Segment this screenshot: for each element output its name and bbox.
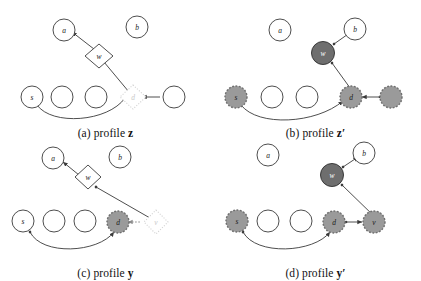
node-d-label: d xyxy=(116,218,120,227)
panel-c-profile-y: a b w s d xyxy=(0,140,211,281)
caption-d-word: profile xyxy=(302,267,333,279)
node-n2 xyxy=(43,210,65,232)
node-b: b xyxy=(109,146,131,168)
node-a-label: a xyxy=(278,26,282,35)
node-v xyxy=(380,86,402,108)
edge-s-to-d xyxy=(30,232,114,249)
node-n3 xyxy=(290,210,312,232)
panel-a-profile-z: a b w s d xyxy=(0,0,211,141)
panel-d-graph: a b w s d xyxy=(210,140,421,281)
node-s: s xyxy=(21,86,43,108)
node-w-label: w xyxy=(85,173,90,182)
node-w: w xyxy=(321,164,344,187)
node-d-label: d xyxy=(332,218,336,227)
node-d: d xyxy=(323,211,345,233)
caption-panel-c: (c) profile y xyxy=(0,267,211,279)
node-s-label: s xyxy=(31,93,34,102)
node-n3 xyxy=(85,86,107,108)
caption-c-word: profile xyxy=(93,267,124,279)
edge-d-to-w xyxy=(104,62,129,92)
panel-c-graph: a b w s d xyxy=(0,140,211,281)
node-b: b xyxy=(126,16,148,38)
node-b-label: b xyxy=(118,153,122,162)
caption-b-word: profile xyxy=(302,127,333,139)
figure-four-panel-profiles: a b w s d xyxy=(0,0,421,281)
edge-s-to-d xyxy=(37,98,125,119)
node-n3 xyxy=(74,210,96,232)
edge-w-to-a xyxy=(72,32,97,51)
node-s-label: s xyxy=(22,217,25,226)
panel-b-profile-z-prime: a b w s d xyxy=(210,0,421,141)
edge-s-to-d xyxy=(243,232,330,249)
node-a-label: a xyxy=(62,26,66,35)
node-d: d xyxy=(340,86,362,108)
panel-b-graph: a b w s d xyxy=(210,0,421,141)
node-d: d xyxy=(120,85,146,109)
node-b: b xyxy=(344,18,366,40)
node-b-label: b xyxy=(353,25,357,34)
node-n3 xyxy=(296,86,318,108)
node-s-label: s xyxy=(236,217,239,226)
node-a: a xyxy=(257,144,279,166)
caption-b-prefix: (b) xyxy=(286,127,300,139)
node-n2 xyxy=(51,86,73,108)
caption-panel-a: (a) profile z xyxy=(0,127,211,139)
caption-b-prime: ′ xyxy=(342,127,345,139)
caption-a-word: profile xyxy=(94,127,125,139)
panel-d-profile-y-prime: a b w s d xyxy=(210,140,421,281)
node-s: s xyxy=(225,86,247,108)
node-n2 xyxy=(261,86,283,108)
node-v xyxy=(163,86,185,108)
node-b: b xyxy=(353,142,375,164)
caption-panel-b: (b) profile z′ xyxy=(210,127,421,139)
node-a-label: a xyxy=(266,151,270,160)
caption-c-symbol: y xyxy=(128,267,134,279)
node-v: v xyxy=(144,210,168,234)
node-a: a xyxy=(42,147,64,169)
node-w: w xyxy=(85,44,113,68)
edge-s-to-d xyxy=(241,101,343,120)
caption-panel-d: (d) profile y′ xyxy=(210,267,421,279)
node-w-label: w xyxy=(329,171,334,180)
panel-a-graph: a b w s d xyxy=(0,0,211,141)
node-d: d xyxy=(107,211,129,233)
node-w-label: w xyxy=(96,52,101,61)
edge-w-to-a xyxy=(63,162,79,175)
node-d-label: d xyxy=(131,93,135,102)
caption-a-prefix: (a) xyxy=(78,127,91,139)
node-d-label: d xyxy=(349,93,353,102)
node-a: a xyxy=(269,19,291,41)
node-s: s xyxy=(12,210,34,232)
node-s-label: s xyxy=(235,93,238,102)
node-v: v xyxy=(363,211,385,233)
node-s: s xyxy=(226,210,248,232)
node-n2 xyxy=(257,210,279,232)
node-a: a xyxy=(53,19,75,41)
caption-d-prime: ′ xyxy=(342,267,345,279)
caption-c-prefix: (c) xyxy=(77,267,90,279)
node-w-label: w xyxy=(320,49,325,58)
node-w: w xyxy=(312,42,335,65)
caption-d-prefix: (d) xyxy=(285,267,299,279)
node-a-label: a xyxy=(51,154,55,163)
node-b-label: b xyxy=(362,149,366,158)
node-b-label: b xyxy=(135,23,139,32)
node-w: w xyxy=(75,165,101,189)
caption-a-symbol: z xyxy=(128,127,133,139)
